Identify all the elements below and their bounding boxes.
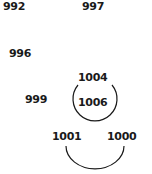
label-997: 997: [82, 1, 104, 13]
arcs-layer: [0, 0, 152, 174]
label-1006: 1006: [78, 97, 107, 109]
label-992: 992: [3, 1, 25, 13]
label-1000: 1000: [107, 131, 136, 143]
label-1001: 1001: [52, 131, 81, 143]
label-1004: 1004: [78, 72, 107, 84]
label-996: 996: [9, 48, 31, 60]
label-999: 999: [25, 94, 47, 106]
lower-arc: [66, 146, 124, 169]
